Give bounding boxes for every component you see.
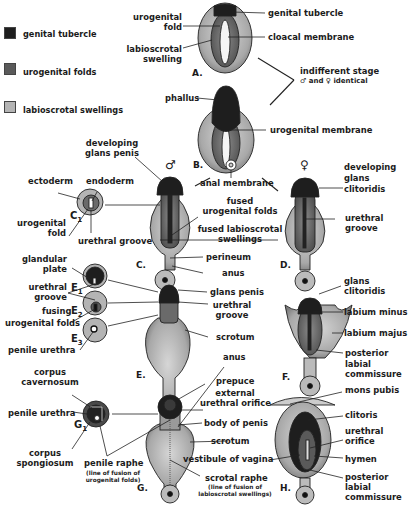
legend-swatch-genital-tubercle [4, 27, 16, 39]
label-penile-raphe: penile raphe [84, 458, 143, 468]
section-e2-id: E2 [71, 306, 83, 320]
label-developing-glans-penis: developing glans penis [82, 138, 142, 158]
label-body-of-penis: body of penis [204, 418, 268, 428]
e3-sub: 3 [78, 339, 83, 347]
legend-label: urogenital folds [23, 67, 96, 77]
e1-letter: E [71, 282, 78, 293]
stage-b-id: B. [193, 160, 203, 170]
label-urethral-groove-e: urethral groove [5, 282, 67, 302]
stage-d-id: D. [280, 260, 291, 270]
label-penile-raphe-note: (line of fusion of urogenital folds) [80, 470, 146, 484]
label-labium-minus: labium minus [344, 307, 408, 317]
label-glans-clitoridis: glans clitoridis [344, 276, 385, 296]
section-e3-id: E3 [71, 334, 83, 348]
label-glans-penis: glans penis [210, 287, 264, 297]
stage-h-id: H. [280, 483, 291, 493]
label-indifferent-stage: indifferent stage [300, 66, 379, 76]
label-external-urethral-orifice: external urethral orifice [200, 388, 270, 408]
label-perineum: perineum [206, 252, 251, 262]
label-scrotum-g: scrotum [211, 436, 250, 446]
label-urethral-groove-c1: urethral groove [78, 236, 152, 246]
label-penile-urethra-e3: penile urethra [8, 345, 76, 355]
label-fusing-urogenital-folds: urogenital folds [5, 318, 80, 328]
section-c1-id: C1 [70, 211, 82, 225]
label-labioscrotal-swelling: labioscrotal swelling [120, 44, 182, 64]
label-fused-labioscrotal-swellings: fused labioscrotal swellings [195, 224, 285, 244]
label-corpus-spongiosum: corpus spongiosum [15, 448, 75, 468]
label-endoderm: endoderm [86, 176, 134, 186]
e1-sub: 1 [78, 288, 83, 296]
e3-letter: E [71, 333, 78, 344]
label-fusing: fusing [42, 306, 71, 316]
label-urethral-orifice: urethral orifice [345, 426, 383, 446]
label-anal-membrane: anal membrane [200, 178, 274, 188]
sections-e-drawing [83, 264, 107, 342]
section-g1-id: G1 [74, 420, 87, 434]
label-cloacal-membrane: cloacal membrane [268, 32, 354, 42]
e2-letter: E [71, 305, 78, 316]
stage-c-drawing [150, 177, 190, 290]
male-symbol: ♂ [165, 160, 176, 170]
label-clitoris: clitoris [345, 410, 377, 420]
g1-sub: 1 [82, 425, 87, 433]
stage-g-drawing [146, 395, 194, 503]
legend-label: labioscrotal swellings [23, 105, 123, 115]
label-penile-urethra-g1: penile urethra [8, 408, 76, 418]
label-labium-majus: labium majus [344, 328, 407, 338]
label-vestibule-of-vagina: vestibule of vagina [183, 454, 273, 464]
stage-a-id: A. [192, 68, 203, 78]
label-genital-tubercle: genital tubercle [268, 8, 343, 18]
label-mons-pubis: mons pubis [345, 385, 399, 395]
label-urogenital-fold-c1: urogenital fold [10, 218, 66, 238]
label-anus-c: anus [222, 268, 245, 278]
stage-f-id: F. [282, 372, 290, 382]
label-scrotal-raphe: scrotal raphe [205, 473, 268, 483]
label-glandular-plate: glandular plate [5, 254, 67, 274]
legend-swatch-urogenital-folds [4, 63, 16, 75]
legend-label: genital tubercle [23, 29, 97, 39]
stage-e-id: E. [136, 370, 146, 380]
label-prepuce: prepuce [216, 376, 254, 386]
label-urethral-groove-d: urethral groove [345, 213, 383, 233]
legend-swatch-labioscrotal-swellings [4, 101, 16, 113]
label-ectoderm: ectoderm [28, 176, 73, 186]
label-posterior-labial-commissure-f: posterior labial commissure [345, 348, 402, 380]
label-hymen: hymen [345, 454, 377, 464]
label-developing-glans-clitoridis: developing glans clitoridis [344, 162, 396, 195]
label-posterior-labial-commissure-h: posterior labial commissure [345, 472, 402, 502]
label-fused-urogenital-folds: fused urogenital folds [200, 196, 280, 216]
female-symbol: ♀ [300, 160, 309, 170]
label-corpus-cavernosum: corpus cavernosum [20, 367, 80, 387]
e2-sub: 2 [78, 311, 83, 319]
stage-f-drawing [285, 298, 352, 396]
label-identical: ♂ and ♀ identical [300, 78, 368, 85]
stage-d-drawing [285, 178, 325, 291]
label-anus-e: anus [223, 352, 246, 362]
section-c1-sub: 1 [77, 216, 82, 224]
label-phallus: phallus [165, 93, 199, 103]
stage-c-id: C. [136, 260, 146, 270]
label-scrotum-e: scrotum [216, 332, 255, 342]
section-e1-id: E1 [71, 283, 83, 297]
stage-g-id: G. [137, 483, 148, 493]
label-urogenital-membrane: urogenital membrane [270, 125, 372, 135]
g1-letter: G [74, 419, 82, 430]
label-scrotal-raphe-note: (line of fusion of labioscrotal swelling… [195, 484, 275, 498]
stage-a-drawing [198, 3, 252, 73]
label-urethral-groove-stage-e: urethral groove [208, 300, 256, 320]
label-urogenital-fold: urogenital fold [130, 12, 182, 32]
